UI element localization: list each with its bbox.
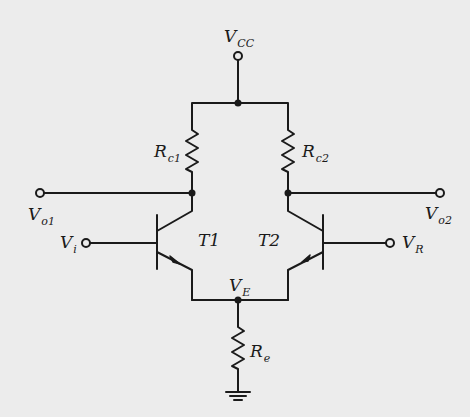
- circuit-schematic: [0, 0, 470, 417]
- vr-terminal: [386, 239, 394, 247]
- vo1-label: Vo1: [28, 206, 55, 227]
- re-resistor-icon: [232, 300, 244, 392]
- rc1-resistor-icon: [186, 125, 198, 193]
- vcc-terminal: [234, 52, 242, 103]
- ground-icon: [226, 392, 250, 400]
- rc2-resistor-icon: [282, 125, 294, 193]
- vi-label: Vi: [60, 234, 77, 255]
- vcc-junction-dot: [235, 100, 242, 107]
- rc1-label: Rc1: [154, 143, 181, 164]
- t1-transistor-icon: [157, 193, 192, 300]
- ve-label: VE: [229, 277, 250, 298]
- rc2-label: Rc2: [302, 143, 329, 164]
- re-label: Re: [250, 343, 270, 364]
- t2-label: T2: [258, 232, 280, 249]
- vo2-label: Vo2: [425, 205, 452, 226]
- vo2-terminal: [436, 189, 444, 197]
- vr-label: VR: [402, 234, 424, 255]
- t1-label: T1: [198, 232, 220, 249]
- differential-amplifier-diagram: VCC Rc1 Rc2 Vo1 Vo2 Vi VR T1 T2 VE Re: [0, 0, 470, 417]
- vcc-label: VCC: [224, 28, 254, 49]
- t2-transistor-icon: [288, 193, 323, 300]
- vi-terminal: [82, 239, 90, 247]
- top-rail-wire: [192, 103, 288, 125]
- vo1-terminal: [36, 189, 44, 197]
